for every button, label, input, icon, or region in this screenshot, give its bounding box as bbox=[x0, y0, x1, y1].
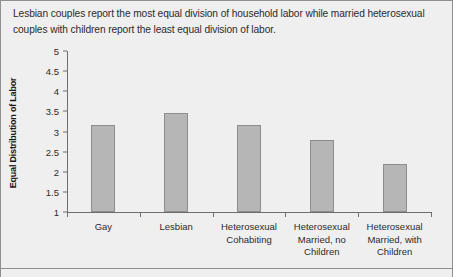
x-axis-tick-label-line: Heterosexual bbox=[207, 221, 291, 234]
x-axis-tick-label-line: Married, no bbox=[280, 234, 364, 247]
x-axis-tick-label: HeterosexualCohabiting bbox=[207, 221, 291, 246]
x-axis-tick-label-line: Cohabiting bbox=[207, 234, 291, 247]
x-axis-line bbox=[67, 212, 431, 213]
x-axis-tick-label-line: Heterosexual bbox=[353, 221, 437, 234]
x-axis-tick-label: HeterosexualMarried, noChildren bbox=[280, 221, 364, 259]
bar bbox=[383, 164, 407, 212]
x-axis-tick-mark bbox=[285, 212, 286, 217]
x-axis-tick-label: HeterosexualMarried, withChildren bbox=[353, 221, 437, 259]
y-axis-tick-label: 1.5 bbox=[46, 186, 59, 197]
bar bbox=[91, 125, 115, 212]
y-axis-tick-label: 2 bbox=[54, 166, 59, 177]
x-axis-tick-label-line: Married, with bbox=[353, 234, 437, 247]
x-axis-tick-mark bbox=[213, 212, 214, 217]
chart-figure: Lesbian couples report the most equal di… bbox=[0, 0, 453, 277]
y-axis-title: Equal Distribution of Labor bbox=[8, 58, 18, 208]
x-axis-tick-label-line: Lesbian bbox=[134, 221, 218, 234]
y-axis-tick-label: 4 bbox=[54, 86, 59, 97]
plot-area: Equal Distribution of Labor 11.522.533.5… bbox=[1, 0, 453, 277]
bar-series bbox=[67, 51, 431, 212]
y-axis-tick-label: 4.5 bbox=[46, 66, 59, 77]
x-axis-tick-label-line: Children bbox=[353, 246, 437, 259]
x-axis-tick-mark bbox=[358, 212, 359, 217]
y-axis-tick-label: 2.5 bbox=[46, 146, 59, 157]
x-axis-tick-label: Lesbian bbox=[134, 221, 218, 234]
bar bbox=[237, 125, 261, 212]
x-axis-tick-label: Gay bbox=[61, 221, 145, 234]
y-axis-tick-label: 3.5 bbox=[46, 106, 59, 117]
bar bbox=[310, 140, 334, 212]
x-axis-tick-label-line: Gay bbox=[61, 221, 145, 234]
y-axis-tick-label: 1 bbox=[54, 207, 59, 218]
x-axis-tick-label-line: Heterosexual bbox=[280, 221, 364, 234]
x-axis-tick-label-line: Children bbox=[280, 246, 364, 259]
y-axis-tick-labels: 11.522.533.544.55 bbox=[39, 51, 65, 213]
x-axis-tick-mark bbox=[431, 212, 432, 217]
x-axis-tick-mark bbox=[140, 212, 141, 217]
x-axis-tick-mark bbox=[67, 212, 68, 217]
bar bbox=[164, 113, 188, 212]
y-axis-tick-label: 5 bbox=[54, 46, 59, 57]
y-axis-tick-label: 3 bbox=[54, 126, 59, 137]
